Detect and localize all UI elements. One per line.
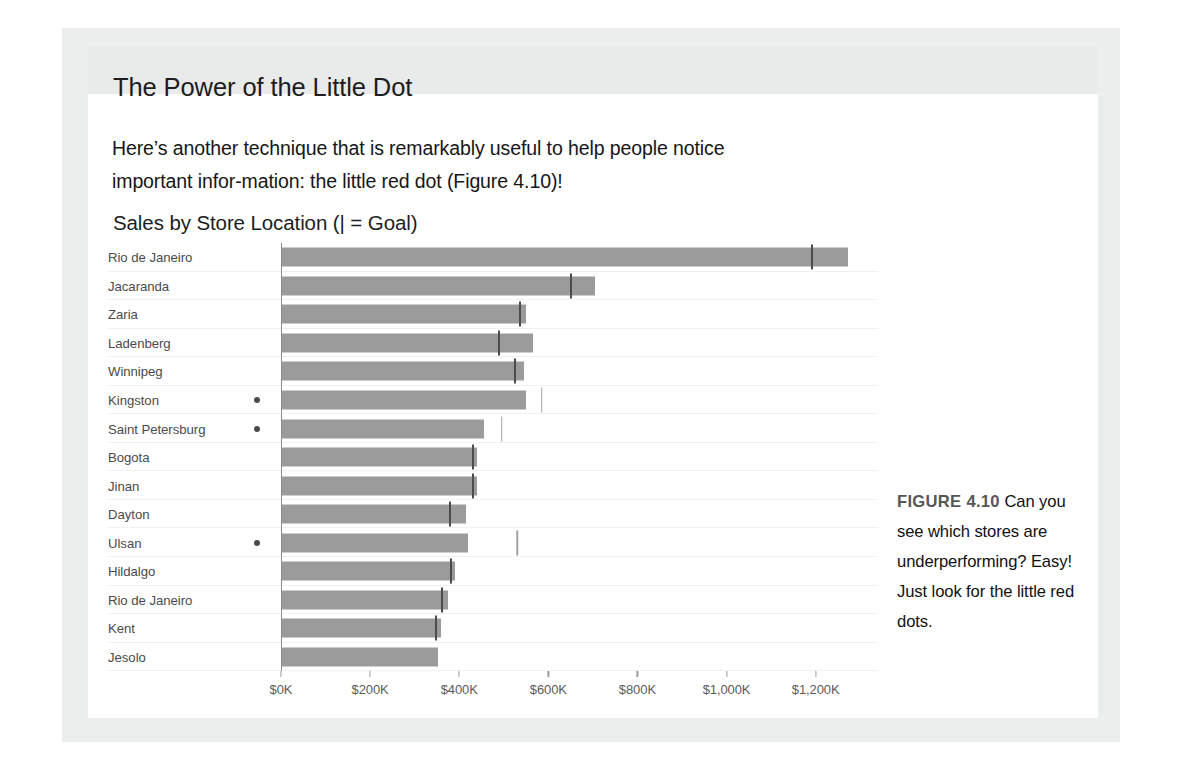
bar-track <box>281 243 878 272</box>
sales-bar <box>281 248 848 267</box>
sales-bar <box>281 505 466 524</box>
chart-row: Ladenberg <box>108 329 878 358</box>
y-axis-line <box>281 243 282 671</box>
chart-row: Rio de Janeiro <box>108 586 878 615</box>
category-label: Jesolo <box>108 649 236 664</box>
red-dot-icon <box>254 426 260 432</box>
goal-marker <box>435 616 437 641</box>
x-tick-label: $0K <box>270 682 293 697</box>
x-tick-label: $800K <box>619 682 656 697</box>
goal-marker <box>472 445 474 470</box>
x-tick-label: $400K <box>441 682 478 697</box>
x-tick-label: $600K <box>530 682 567 697</box>
bar-track <box>281 386 878 415</box>
chart-row: Rio de Janeiro <box>108 243 878 272</box>
goal-marker <box>501 416 503 441</box>
x-tick-label: $1,000K <box>703 682 751 697</box>
chart-row: Jinan <box>108 471 878 500</box>
bar-track <box>281 471 878 500</box>
chart-row: Ulsan <box>108 528 878 557</box>
red-dot-icon <box>254 540 260 546</box>
figure-caption: FIGURE 4.10 Can you see which stores are… <box>897 487 1077 637</box>
goal-marker <box>498 330 500 355</box>
x-tick-mark <box>637 671 638 677</box>
goal-marker <box>441 587 443 612</box>
goal-marker <box>570 273 572 298</box>
sales-bar <box>281 619 441 638</box>
chart-rows: Rio de JaneiroJacarandaZariaLadenbergWin… <box>108 243 878 671</box>
sales-bar <box>281 305 526 324</box>
sales-bar <box>281 419 484 438</box>
chart-row: Winnipeg <box>108 357 878 386</box>
bar-track <box>281 586 878 615</box>
sales-bar <box>281 533 468 552</box>
category-label: Jinan <box>108 478 236 493</box>
sales-bar <box>281 362 524 381</box>
category-label: Kent <box>108 621 236 636</box>
bar-track <box>281 414 878 443</box>
category-label: Dayton <box>108 507 236 522</box>
goal-marker <box>514 359 516 384</box>
chart-row: Saint Petersburg <box>108 414 878 443</box>
chart-row: Jacaranda <box>108 272 878 301</box>
category-label: Ulsan <box>108 535 236 550</box>
x-axis: $0K$200K$400K$600K$800K$1,000K$1,200K <box>281 671 878 705</box>
bar-chart: Rio de JaneiroJacarandaZariaLadenbergWin… <box>108 243 878 679</box>
bar-track <box>281 528 878 557</box>
sales-bar <box>281 647 438 666</box>
figure-caption-text: Can you see which stores are underperfor… <box>897 492 1074 631</box>
goal-marker <box>472 473 474 498</box>
chart-row: Kent <box>108 614 878 643</box>
goal-marker <box>811 245 813 270</box>
goal-marker <box>516 530 518 555</box>
x-tick-mark <box>370 671 371 677</box>
category-label: Zaria <box>108 307 236 322</box>
bar-track <box>281 500 878 529</box>
goal-marker <box>541 388 543 413</box>
x-tick-label: $1,200K <box>792 682 840 697</box>
bar-track <box>281 357 878 386</box>
category-label: Bogota <box>108 450 236 465</box>
bar-track <box>281 614 878 643</box>
sales-bar <box>281 476 477 495</box>
bar-track <box>281 300 878 329</box>
bar-track <box>281 329 878 358</box>
goal-marker <box>519 302 521 327</box>
category-label: Winnipeg <box>108 364 236 379</box>
x-tick-mark <box>459 671 460 677</box>
bar-track <box>281 643 878 672</box>
x-tick-mark <box>280 671 281 677</box>
goal-marker <box>449 502 451 527</box>
chart-row: Dayton <box>108 500 878 529</box>
scanned-page: The Power of the Little Dot Here’s anoth… <box>0 0 1184 782</box>
x-tick-mark <box>815 671 816 677</box>
red-dot-icon <box>254 397 260 403</box>
category-label: Kingston <box>108 393 236 408</box>
figure-label: FIGURE 4.10 <box>897 492 1000 511</box>
sales-bar <box>281 448 477 467</box>
sales-bar <box>281 562 455 581</box>
category-label: Rio de Janeiro <box>108 592 236 607</box>
sales-bar <box>281 590 448 609</box>
goal-marker <box>450 559 452 584</box>
chart-row: Jesolo <box>108 643 878 672</box>
section-title: The Power of the Little Dot <box>113 67 813 107</box>
chart-row: Bogota <box>108 443 878 472</box>
category-label: Rio de Janeiro <box>108 250 236 265</box>
category-label: Ladenberg <box>108 335 236 350</box>
chart-row: Kingston <box>108 386 878 415</box>
sales-bar <box>281 276 595 295</box>
bar-track <box>281 272 878 301</box>
category-label: Saint Petersburg <box>108 421 236 436</box>
chart-title: Sales by Store Location (| = Goal) <box>113 211 417 235</box>
x-tick-mark <box>548 671 549 677</box>
sales-bar <box>281 391 526 410</box>
sales-bar <box>281 333 533 352</box>
x-tick-mark <box>726 671 727 677</box>
body-paragraph: Here’s another technique that is remarka… <box>112 132 802 198</box>
bar-track <box>281 443 878 472</box>
bar-track <box>281 557 878 586</box>
chart-row: Zaria <box>108 300 878 329</box>
category-label: Jacaranda <box>108 278 236 293</box>
chart-row: Hildalgo <box>108 557 878 586</box>
